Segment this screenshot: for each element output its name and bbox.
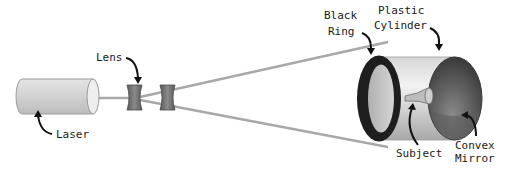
arrowhead-black-ring <box>367 48 375 55</box>
label-plastic-cylinder-line2: Cylinder <box>374 19 427 32</box>
arrow-plastic-cylinder <box>430 28 439 44</box>
arrow-lens <box>126 58 138 78</box>
label-lens-group: Lens <box>96 51 142 84</box>
diagram-canvas: Laser Lens Black Ring Plastic Cylinder S… <box>0 0 512 176</box>
label-convex-mirror-line1: Convex <box>455 139 495 152</box>
arrowhead-lens <box>134 77 142 84</box>
label-laser: Laser <box>56 128 89 141</box>
label-lens: Lens <box>96 51 123 64</box>
lens-1 <box>127 85 142 110</box>
label-black-ring-group: Black Ring <box>324 9 375 55</box>
beam-upper <box>140 42 388 97</box>
label-black-ring-line2: Ring <box>328 25 355 38</box>
label-laser-group: Laser <box>34 110 89 141</box>
lens-2 <box>160 85 175 110</box>
black-ring <box>357 56 401 142</box>
label-subject: Subject <box>396 147 442 160</box>
label-convex-mirror-line2: Mirror <box>455 152 495 165</box>
laser <box>16 79 99 114</box>
arrowhead-plastic-cylinder <box>435 44 443 51</box>
label-plastic-cylinder-line1: Plastic <box>378 4 424 17</box>
convex-mirror <box>428 57 482 140</box>
beam-lower <box>140 100 388 147</box>
label-black-ring-line1: Black <box>324 9 357 22</box>
arrow-laser <box>38 115 52 134</box>
